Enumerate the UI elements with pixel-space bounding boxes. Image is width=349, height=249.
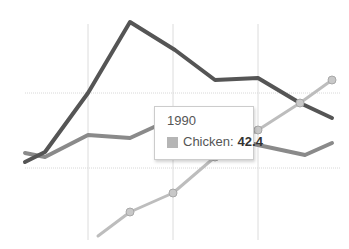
data-point-marker[interactable] bbox=[296, 99, 304, 107]
data-point-marker[interactable] bbox=[254, 126, 262, 134]
tooltip-value: 42.4 bbox=[238, 134, 263, 150]
data-tooltip: 1990 Chicken: 42.4 bbox=[154, 106, 254, 160]
tooltip-series-label: Chicken: bbox=[183, 134, 234, 150]
tooltip-row: Chicken: 42.4 bbox=[167, 134, 253, 150]
tooltip-title: 1990 bbox=[167, 113, 253, 129]
series-swatch-icon bbox=[167, 137, 178, 148]
data-point-marker[interactable] bbox=[126, 208, 134, 216]
data-point-marker[interactable] bbox=[328, 76, 336, 84]
data-point-marker[interactable] bbox=[169, 189, 177, 197]
